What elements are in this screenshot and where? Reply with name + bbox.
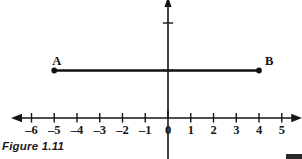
x-tick-label-3: 3 — [224, 124, 248, 137]
x-tick-label-neg6: –6 — [20, 124, 44, 137]
x-tick-label-1: 1 — [179, 124, 203, 137]
tick-marks-group — [32, 23, 282, 123]
page-edge-artifact — [286, 154, 302, 159]
point-b — [256, 68, 262, 74]
x-tick-label-2: 2 — [202, 124, 226, 137]
figure-caption: Figure 1.11 — [2, 140, 64, 152]
arrow-left-icon — [11, 114, 22, 122]
x-tick-label-4: 4 — [247, 124, 271, 137]
x-tick-label-neg3: –3 — [88, 124, 112, 137]
arrow-right-icon — [291, 114, 302, 122]
x-tick-label-0: 0 — [156, 124, 180, 137]
x-tick-label-5: 5 — [270, 124, 294, 137]
x-tick-label-neg2: –2 — [111, 124, 135, 137]
point-label-b: B — [265, 55, 273, 68]
figure-container: –6–5–4–3–2–1012345 AB Figure 1.11 — [0, 0, 302, 159]
point-a — [51, 68, 57, 74]
arrow-up-icon — [164, 0, 171, 7]
x-tick-label-neg5: –5 — [42, 124, 66, 137]
x-tick-label-neg4: –4 — [65, 124, 89, 137]
x-tick-label-neg1: –1 — [133, 124, 157, 137]
point-label-a: A — [52, 55, 61, 68]
